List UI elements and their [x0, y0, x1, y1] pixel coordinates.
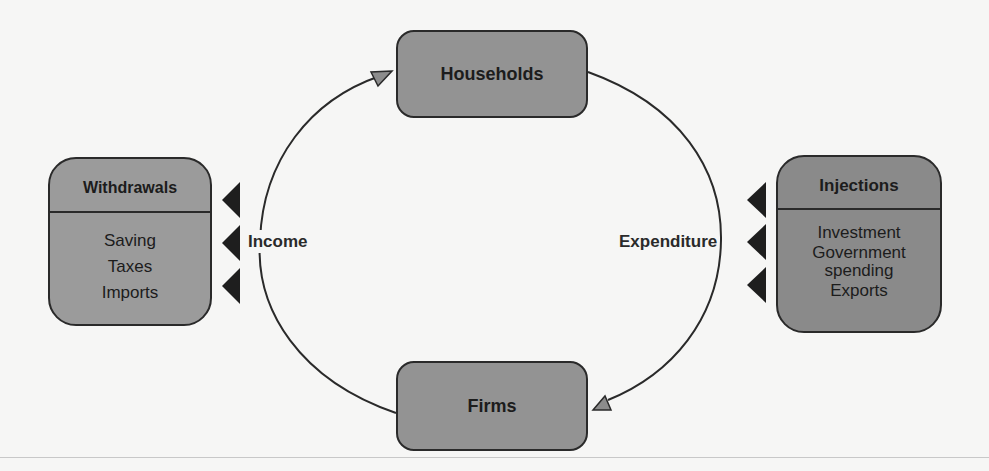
injection-arrow-icon — [747, 224, 766, 260]
withdrawal-arrow-icon — [222, 182, 240, 218]
injections-list: Investment Government spending Exports — [778, 210, 940, 300]
income-flow-label: Income — [248, 232, 308, 252]
withdrawal-item-taxes: Taxes — [108, 254, 152, 280]
households-label: Households — [440, 64, 543, 85]
withdrawals-panel: Withdrawals Saving Taxes Imports — [48, 157, 212, 326]
injection-item-spending: spending — [824, 262, 893, 280]
expenditure-arrowhead-icon — [593, 396, 611, 410]
injection-item-government: Government — [812, 244, 906, 262]
withdrawal-item-imports: Imports — [102, 280, 159, 306]
injections-title: Injections — [778, 157, 940, 210]
page-divider — [0, 457, 989, 458]
withdrawal-item-saving: Saving — [104, 228, 156, 254]
firms-node: Firms — [396, 361, 588, 451]
withdrawal-arrow-icon — [222, 225, 240, 261]
injections-panel: Injections Investment Government spendin… — [776, 155, 942, 333]
expenditure-label: Expenditure — [619, 230, 717, 253]
firms-label: Firms — [467, 396, 516, 417]
injection-arrow-icon — [747, 182, 766, 218]
households-node: Households — [396, 30, 588, 118]
injection-item-investment: Investment — [817, 224, 900, 242]
withdrawal-arrow-icon — [222, 268, 240, 304]
injection-arrow-icon — [747, 267, 766, 303]
withdrawals-title: Withdrawals — [50, 159, 210, 213]
income-label: Income — [248, 230, 308, 253]
expenditure-flow-label: Expenditure — [619, 232, 717, 252]
circular-flow-diagram: Households Firms Income Expenditure With… — [0, 0, 989, 471]
injection-item-exports: Exports — [830, 282, 888, 300]
income-arrowhead-icon — [371, 71, 392, 86]
withdrawals-list: Saving Taxes Imports — [50, 213, 210, 306]
